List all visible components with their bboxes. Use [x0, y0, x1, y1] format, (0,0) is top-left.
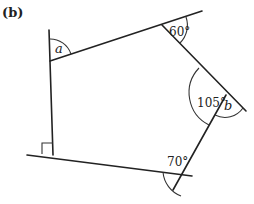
right-angle-marker [42, 143, 53, 154]
angle-60-label: 60° [169, 25, 190, 39]
pentagon-diagram: a 60° 105° b 70° [0, 0, 254, 204]
angle-b-label: b [224, 98, 232, 113]
angle-105-label: 105° [197, 96, 226, 110]
angle-70-arc [163, 172, 181, 196]
edge-left-vertical [49, 30, 53, 155]
angle-a-label: a [55, 41, 63, 56]
angle-70-label: 70° [167, 155, 188, 169]
